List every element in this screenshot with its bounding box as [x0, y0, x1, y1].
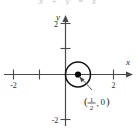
callout-open-paren: ( [84, 95, 88, 108]
callout-zero: 0 [101, 97, 106, 107]
point-coordinate-label: ( 1 2 , 0 ) [84, 95, 110, 112]
callout-comma: , [97, 98, 99, 108]
callout-fraction-denominator: 2 [90, 104, 94, 112]
x-tick-label-pos2: 2 [112, 81, 116, 90]
x-tick-label-neg2: -2 [10, 81, 17, 90]
math-figure-circle: x + y = x x y -2 2 2 -2 [0, 0, 138, 131]
x-axis-arrowhead [126, 71, 133, 77]
coordinate-plot: x y -2 2 2 -2 ( 1 2 , 0 ) [0, 0, 138, 131]
y-tick-label-neg2: -2 [52, 116, 59, 125]
y-tick-label-pos2: 2 [54, 20, 58, 29]
callout-close-paren: ) [106, 95, 110, 108]
y-axis-arrowhead [62, 15, 68, 22]
callout-fraction-numerator: 1 [90, 96, 94, 104]
x-axis-label: x [125, 57, 130, 67]
